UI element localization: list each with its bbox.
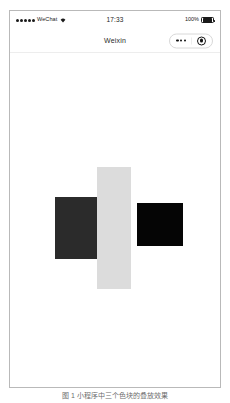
- right-black-rect: [137, 203, 183, 246]
- battery-percent-label: 100%: [185, 17, 199, 23]
- status-bar-left: WeChat: [16, 17, 66, 23]
- more-dots-icon[interactable]: [176, 39, 185, 41]
- figure-caption: 图 1 小程序中三个色块的叠放效果: [0, 392, 230, 400]
- status-bar-right: 100%: [185, 17, 214, 24]
- battery-fill: [203, 18, 213, 21]
- left-dark-rect: [55, 197, 100, 259]
- navigation-bar: Weixin: [10, 29, 220, 53]
- signal-strength-icon: [16, 19, 35, 22]
- capsule-divider: [191, 37, 192, 44]
- target-circle-icon[interactable]: [197, 36, 206, 45]
- content-canvas: [10, 53, 220, 387]
- phone-frame: WeChat 17:33 100% Weixin: [9, 10, 221, 388]
- miniprogram-capsule[interactable]: [169, 33, 213, 48]
- center-light-rect: [97, 167, 131, 289]
- status-bar: WeChat 17:33 100%: [10, 11, 220, 29]
- battery-icon: [201, 17, 214, 24]
- carrier-label: WeChat: [37, 17, 57, 23]
- figure-container: WeChat 17:33 100% Weixin: [0, 0, 230, 403]
- wifi-icon: [60, 17, 66, 23]
